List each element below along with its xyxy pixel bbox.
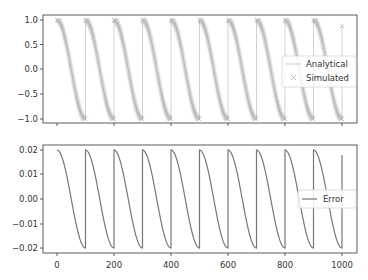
- x-tick-label: 0: [54, 260, 59, 270]
- y-tick-label: 0.02: [19, 145, 38, 155]
- figure: 1.0 0.5 0.0 −0.5 −1.0 Analytical Simulat…: [0, 0, 368, 280]
- y-tick-label: 0.01: [19, 169, 38, 179]
- y-tick-label: −0.5: [17, 89, 38, 99]
- legend-bottom: Error: [298, 190, 356, 208]
- y-tick-label: 0.0: [24, 64, 38, 74]
- y-tick-label: 1.0: [24, 15, 38, 25]
- bottom-y-axis: 0.02 0.01 0.00 −0.01 −0.02: [12, 145, 38, 253]
- x-tick-label: 1000: [331, 260, 353, 270]
- x-tick-label: 200: [106, 260, 122, 270]
- y-tick-label: 0.5: [24, 40, 38, 50]
- y-tick-label: −0.01: [12, 219, 38, 229]
- bottom-x-axis: 0 200 400 600 800 1000: [40, 150, 353, 270]
- top-axes: 1.0 0.5 0.0 −0.5 −1.0 Analytical Simulat…: [17, 15, 357, 126]
- bottom-axes: 0.02 0.01 0.00 −0.01 −0.02 0 200 400 600…: [12, 145, 357, 270]
- y-tick-label: 0.00: [19, 194, 38, 204]
- y-tick-label: −0.02: [12, 243, 38, 253]
- legend-label-error: Error: [323, 194, 344, 204]
- x-tick-label: 400: [163, 260, 179, 270]
- legend-label-analytical: Analytical: [306, 59, 348, 69]
- x-tick-label: 600: [220, 260, 236, 270]
- legend-label-simulated: Simulated: [306, 73, 349, 83]
- legend-top: Analytical Simulated: [282, 56, 356, 87]
- top-y-axis: 1.0 0.5 0.0 −0.5 −1.0: [17, 15, 38, 124]
- x-tick-label: 800: [277, 260, 293, 270]
- y-tick-label: −1.0: [17, 114, 38, 124]
